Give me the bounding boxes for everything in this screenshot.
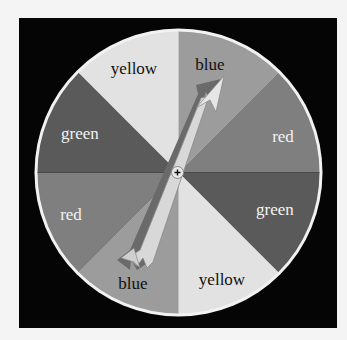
segment-label-yellow-bottom: yellow bbox=[199, 270, 246, 289]
segment-label-green-left: green bbox=[61, 124, 99, 143]
segment-label-green-right: green bbox=[256, 200, 294, 219]
segment-label-red-right: red bbox=[272, 127, 294, 146]
segment-label-yellow-top: yellow bbox=[111, 59, 158, 78]
segment-label-blue-top: blue bbox=[195, 55, 224, 74]
spinner: blue red green yellow blue red green yel… bbox=[0, 0, 347, 340]
segment-label-blue-bottom: blue bbox=[118, 274, 147, 293]
segment-label-red-left: red bbox=[60, 205, 82, 224]
